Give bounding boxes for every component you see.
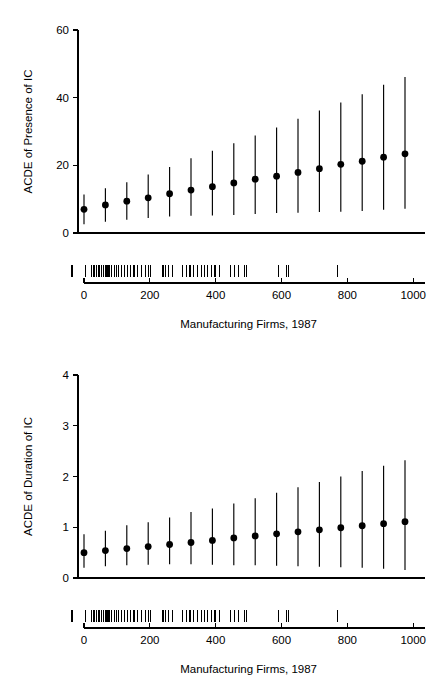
data-point: [295, 169, 302, 176]
y-axis-title: ACDE of Presence of IC: [22, 70, 34, 194]
chart-acde-presence-of-ic: 0204060ACDE of Presence of IC02004006008…: [0, 0, 447, 345]
y-tick-label: 3: [63, 420, 69, 432]
data-point: [145, 543, 152, 550]
x-tick-label: 200: [140, 634, 159, 646]
data-point: [252, 532, 259, 539]
data-point: [188, 187, 195, 194]
chart-acde-duration-of-ic: 01234ACDE of Duration of IC0200400600800…: [0, 345, 447, 690]
data-point: [81, 549, 88, 556]
data-point: [123, 545, 130, 552]
data-point: [209, 183, 216, 190]
rug-plot: [72, 265, 338, 277]
data-point: [252, 176, 259, 183]
x-tick-label: 600: [272, 289, 291, 301]
x-tick-label: 400: [206, 634, 225, 646]
y-axis-title: ACDE of Duration of IC: [22, 417, 34, 536]
data-point: [316, 526, 323, 533]
y-tick-label: 0: [63, 572, 69, 584]
x-axis-title: Manufacturing Firms, 1987: [180, 663, 317, 675]
x-tick-label: 800: [338, 289, 357, 301]
y-tick-label: 60: [56, 24, 69, 36]
data-point: [273, 530, 280, 537]
data-point: [230, 180, 237, 187]
x-tick-label: 1000: [400, 289, 426, 301]
data-series-acde: [81, 77, 409, 224]
panel-duration-of-ic: 01234ACDE of Duration of IC0200400600800…: [0, 345, 447, 690]
y-tick-label: 20: [56, 159, 69, 171]
y-tick-label: 40: [56, 92, 69, 104]
data-point: [402, 150, 409, 157]
data-point: [380, 154, 387, 161]
y-tick-label: 0: [63, 227, 69, 239]
x-tick-label: 800: [338, 634, 357, 646]
y-tick-label: 4: [63, 369, 70, 381]
data-point: [102, 547, 109, 554]
data-point: [359, 522, 366, 529]
data-point: [81, 206, 88, 213]
y-tick-label: 1: [63, 521, 69, 533]
x-tick-label: 200: [140, 289, 159, 301]
data-series-acde: [81, 460, 409, 570]
data-point: [359, 158, 366, 165]
rug-plot: [72, 610, 338, 622]
x-axis: 02004006008001000: [81, 623, 426, 646]
data-point: [230, 535, 237, 542]
data-point: [380, 520, 387, 527]
y-tick-label: 2: [63, 471, 69, 483]
x-axis: 02004006008001000: [81, 278, 426, 301]
data-point: [337, 161, 344, 168]
data-point: [337, 524, 344, 531]
x-tick-label: 400: [206, 289, 225, 301]
data-point: [402, 518, 409, 525]
data-point: [166, 541, 173, 548]
y-axis-ticks: 01234: [63, 369, 78, 584]
data-point: [145, 194, 152, 201]
data-point: [123, 198, 130, 205]
x-tick-label: 0: [81, 634, 87, 646]
data-point: [102, 202, 109, 209]
y-axis-ticks: 0204060: [56, 24, 78, 239]
x-tick-label: 1000: [400, 634, 426, 646]
x-axis-title: Manufacturing Firms, 1987: [180, 318, 317, 330]
data-point: [295, 528, 302, 535]
data-point: [188, 539, 195, 546]
panel-presence-of-ic: 0204060ACDE of Presence of IC02004006008…: [0, 0, 447, 345]
data-point: [166, 190, 173, 197]
data-point: [209, 537, 216, 544]
x-tick-label: 0: [81, 289, 87, 301]
data-point: [316, 165, 323, 172]
data-point: [273, 173, 280, 180]
x-tick-label: 600: [272, 634, 291, 646]
